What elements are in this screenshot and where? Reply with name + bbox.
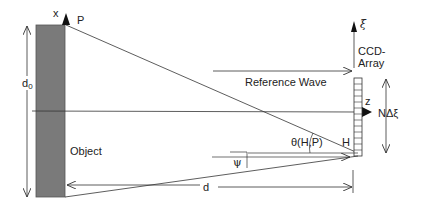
ccd-label-line1: CCD- [358, 45, 386, 57]
z-axis-arrow-icon [362, 107, 372, 117]
z-axis-label: z [365, 95, 371, 107]
psi-angle-label: ψ [233, 156, 242, 169]
reference-wave-label: Reference Wave [245, 76, 327, 88]
n-delta-xi-label: NΔξ [378, 107, 398, 119]
point-h-label: H [342, 136, 350, 148]
x-axis-label: x [53, 7, 59, 19]
xi-axis-arrow-icon [351, 21, 357, 32]
ccd-label-line2: Array [358, 57, 385, 69]
holography-diagram: x P d0 z Object Reference Wave CCD- Arra… [0, 0, 423, 212]
ray-bottom-to-h [65, 156, 358, 197]
point-p-label: P [77, 14, 84, 26]
distance-label: d [203, 181, 209, 193]
ray-p-to-h [66, 25, 358, 153]
xi-axis-label: ξ [360, 18, 367, 31]
ccd-array [354, 78, 362, 156]
optical-axis [32, 111, 358, 112]
theta-angle-label: θ(H,P) [291, 136, 323, 148]
object-label: Object [70, 145, 102, 157]
x-axis-arrow-icon [62, 13, 70, 25]
